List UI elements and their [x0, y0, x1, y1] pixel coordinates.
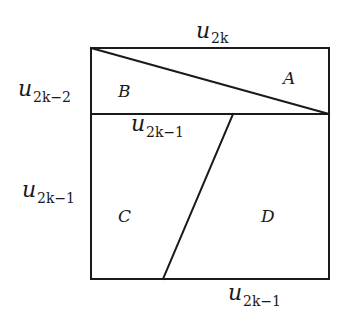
label-top-subscript: 2k	[211, 30, 229, 46]
label-left-lower-base: u	[22, 177, 36, 202]
label-left-upper: u 2k−2	[18, 76, 71, 105]
label-middle-base: u	[131, 111, 145, 136]
label-middle: u 2k−1	[131, 111, 184, 140]
region-c-label: C	[118, 206, 131, 226]
label-bottom-subscript: 2k−1	[243, 293, 281, 309]
label-middle-subscript: 2k−1	[146, 124, 184, 140]
label-bottom: u 2k−1	[228, 280, 281, 309]
square-partition-diagram: u 2k u 2k−2 u 2k−1 u 2k−1 u 2k−1 A B C D	[0, 0, 345, 324]
region-a-label: A	[281, 68, 295, 88]
region-b-label: B	[117, 81, 131, 101]
label-top-base: u	[196, 18, 210, 43]
label-left-lower-subscript: 2k−1	[37, 190, 75, 206]
label-left-upper-subscript: 2k−2	[33, 89, 71, 105]
label-bottom-base: u	[228, 280, 242, 305]
label-left-lower: u 2k−1	[22, 177, 75, 206]
label-top: u 2k	[196, 18, 229, 46]
label-left-upper-base: u	[18, 76, 32, 101]
region-d-label: D	[260, 206, 275, 226]
